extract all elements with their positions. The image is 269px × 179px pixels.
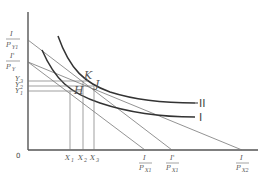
svg-text:P: P xyxy=(235,164,241,172)
point-K-label: K xyxy=(83,69,93,82)
budget-line-3 xyxy=(28,62,242,150)
svg-text:X1: X1 xyxy=(144,167,152,173)
diagram-canvas: II I K J H I P Y1 I' P Y Y 3 Y 2 Y 1 0 X… xyxy=(0,0,269,179)
svg-text:Y1: Y1 xyxy=(12,44,18,50)
svg-text:1: 1 xyxy=(71,157,74,163)
svg-text:I': I' xyxy=(9,52,15,60)
y-intercept-label-1: I P Y1 xyxy=(5,30,20,50)
x-intercept-label-1: I P X1 xyxy=(138,154,152,173)
svg-text:I': I' xyxy=(169,154,175,162)
svg-text:Y: Y xyxy=(12,66,16,72)
x-intercept-label-2: I' P X1 xyxy=(165,154,179,173)
curve-I-label: I xyxy=(199,111,202,124)
svg-text:X1: X1 xyxy=(171,167,179,173)
svg-text:P: P xyxy=(5,63,11,71)
svg-text:P: P xyxy=(165,164,171,172)
point-J-label: J xyxy=(93,78,100,91)
origin-label: 0 xyxy=(16,152,20,160)
budget-line-1 xyxy=(28,40,172,150)
x-intercept-label-3: I P X2 xyxy=(235,154,249,173)
svg-text:I: I xyxy=(9,30,13,38)
svg-text:P: P xyxy=(5,41,11,49)
svg-text:I: I xyxy=(142,154,146,162)
svg-text:2: 2 xyxy=(83,157,87,163)
x1-label: X 1 xyxy=(64,154,74,163)
x3-label: X 3 xyxy=(89,154,99,163)
svg-text:X2: X2 xyxy=(241,167,249,173)
svg-text:X: X xyxy=(77,154,84,162)
x2-label: X 2 xyxy=(77,154,87,163)
svg-text:X: X xyxy=(64,154,71,162)
svg-text:P: P xyxy=(138,164,144,172)
curve-II-label: II xyxy=(199,97,206,110)
svg-text:3: 3 xyxy=(96,157,99,163)
point-H-label: H xyxy=(73,84,84,97)
svg-text:X: X xyxy=(89,154,96,162)
svg-text:1: 1 xyxy=(20,90,23,96)
y-intercept-label-2: I' P Y xyxy=(5,52,20,72)
indifference-curve-I xyxy=(42,50,195,117)
svg-text:I: I xyxy=(239,154,243,162)
